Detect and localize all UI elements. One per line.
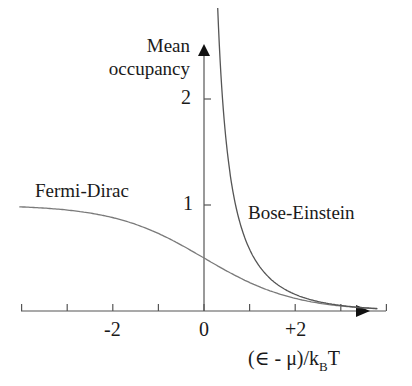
x-tick-plus-2: +2 — [285, 318, 306, 341]
x-tick-0: 0 — [199, 318, 209, 341]
y-axis-arrow-icon — [198, 44, 210, 56]
y-axis-label-line1: Mean — [109, 34, 190, 57]
fermi-dirac-label: Fermi-Dirac — [35, 180, 129, 202]
y-tick-1: 1 — [183, 192, 193, 215]
x-axis-label-sub: B — [319, 359, 328, 374]
bose-einstein-label: Bose-Einstein — [248, 202, 355, 224]
x-axis-label-main: (∈ - μ)/k — [248, 347, 319, 369]
x-axis-label-tail: T — [328, 347, 340, 369]
y-axis-label-line2: occupancy — [109, 57, 190, 80]
y-tick-2: 2 — [181, 86, 191, 109]
y-axis — [198, 44, 211, 311]
bose-einstein-curve — [218, 8, 378, 309]
y-axis-label: Mean occupancy — [109, 34, 190, 80]
x-tick-minus-2: -2 — [104, 318, 121, 341]
x-axis-label: (∈ - μ)/kBT — [248, 346, 340, 375]
